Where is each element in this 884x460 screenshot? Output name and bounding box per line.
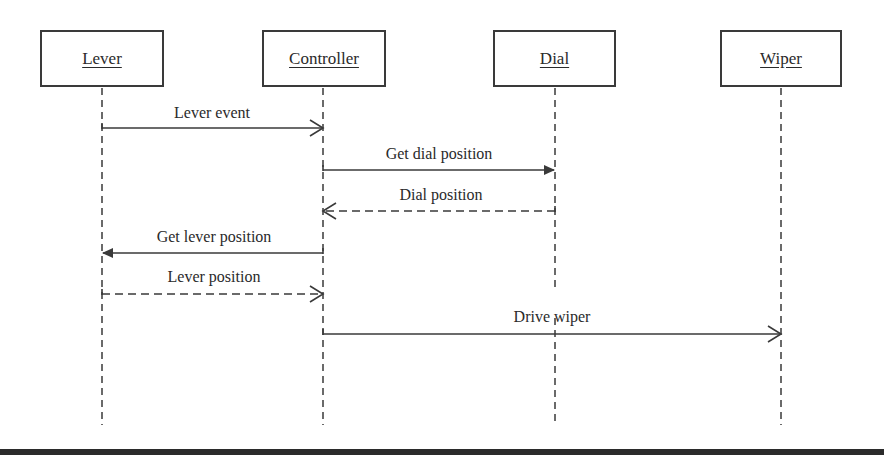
message-label-lever-position: Lever position	[168, 268, 261, 286]
actor-label: Lever	[82, 49, 122, 69]
actor-wiper: Wiper	[720, 30, 842, 87]
actor-lever: Lever	[40, 30, 164, 87]
actor-label: Controller	[289, 49, 359, 69]
actor-label: Wiper	[760, 49, 802, 69]
actor-dial: Dial	[493, 30, 616, 87]
message-label-lever-event: Lever event	[174, 104, 250, 122]
actor-controller: Controller	[262, 30, 386, 87]
message-label-dial-position: Dial position	[399, 186, 482, 204]
bottom-rule	[0, 449, 884, 455]
message-label-drive-wiper: Drive wiper	[514, 308, 591, 326]
message-label-get-lever-position: Get lever position	[157, 228, 272, 246]
arrowhead-filled-icon	[544, 165, 555, 175]
message-label-get-dial-position: Get dial position	[386, 145, 493, 163]
sequence-diagram: Lever Controller Dial Wiper Lever event …	[0, 0, 884, 460]
arrowhead-filled-icon	[102, 248, 113, 258]
actor-label: Dial	[540, 49, 569, 69]
